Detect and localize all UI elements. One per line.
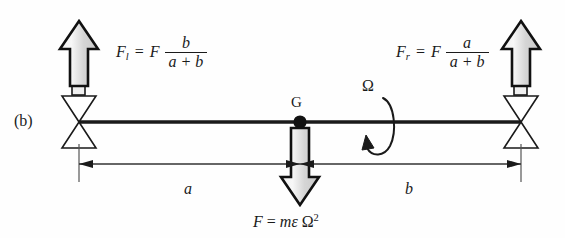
left-support-upper-triangle [62, 96, 96, 122]
left-force-equals: = [133, 43, 146, 60]
rotor-force-diagram: (b) Fl = F b a + b Fr = F a a + b G Ω a … [0, 0, 565, 238]
right-force-denominator: a + b [446, 53, 489, 70]
centrifugal-force-exponent: 2 [314, 212, 319, 223]
right-force-symbol: F [396, 43, 406, 60]
centrifugal-force-equation: F = mε Ω2 [253, 213, 319, 230]
left-force-factor: F [150, 43, 160, 60]
centrifugal-force-mass: m [280, 213, 292, 230]
right-force-factor: F [431, 43, 441, 60]
left-force-subscript: l [126, 51, 129, 62]
left-force-symbol: F [116, 43, 126, 60]
rotation-arrowhead [362, 135, 374, 150]
left-force-numerator: b [165, 35, 208, 53]
right-force-numerator: a [446, 35, 489, 53]
dim-a-arrowhead-left [79, 160, 93, 168]
left-force-fraction: b a + b [165, 35, 208, 70]
rotation-speed-label: Ω [362, 78, 374, 94]
left-force-equation: Fl = F b a + b [116, 36, 208, 71]
center-of-mass-dot [293, 115, 306, 128]
centrifugal-force-eccentricity: ε [291, 213, 297, 230]
left-force-denominator: a + b [165, 53, 208, 70]
dimension-label-a: a [184, 181, 192, 197]
panel-label: (b) [14, 113, 33, 129]
dimension-line-a [79, 160, 300, 168]
dim-b-arrowhead-right [507, 160, 521, 168]
centrifugal-force-omega: Ω [302, 213, 314, 230]
right-force-equation: Fr = F a a + b [396, 36, 490, 71]
centrifugal-force-symbol: F [253, 213, 263, 230]
dimension-line-b [300, 160, 521, 168]
right-force-fraction: a a + b [446, 35, 489, 70]
left-bearing-support [62, 84, 96, 148]
left-reaction-force-arrow [60, 21, 98, 86]
right-bearing-support [504, 84, 538, 148]
right-force-equals: = [414, 43, 427, 60]
right-support-upper-triangle [504, 96, 538, 122]
right-reaction-force-arrow [502, 21, 540, 86]
centrifugal-force-equals: = [267, 213, 276, 230]
center-of-mass-label: G [291, 95, 302, 110]
right-force-subscript: r [406, 51, 410, 62]
dimension-label-b: b [405, 181, 413, 197]
rotation-indicator [362, 98, 394, 155]
